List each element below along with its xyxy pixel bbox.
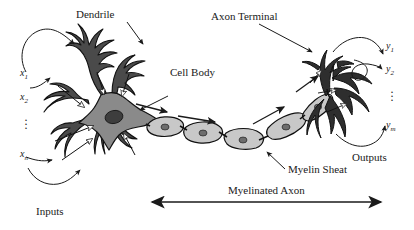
label-inputs: Inputs — [36, 206, 64, 217]
input-xn-sub: n — [24, 154, 28, 162]
cell-body-soma — [79, 93, 158, 150]
neuron-illustration — [0, 0, 414, 230]
label-dendrite: Dendrile — [76, 9, 114, 20]
input-label-x2: x2 — [20, 92, 28, 105]
input-label-x1: x1 — [20, 68, 28, 81]
label-axon-terminal: Axon Terminal — [211, 11, 278, 22]
neuron-diagram: Dendrile Cell Body Axon Terminal Myelin … — [0, 0, 414, 230]
output-label-ym: ym — [386, 120, 396, 133]
leader-myelin-sheath — [267, 152, 285, 169]
leader-axon-terminal — [259, 24, 312, 52]
input-arrows — [22, 29, 80, 184]
output-ellipsis-icon: ··· — [388, 90, 396, 102]
output-y1-sub: 1 — [390, 46, 394, 54]
axon-terminal-tree — [302, 50, 372, 138]
output-y2-sub: 2 — [390, 69, 394, 77]
leader-dendrite — [127, 22, 143, 44]
output-ym-sub: m — [390, 125, 395, 133]
output-label-y1: y1 — [386, 41, 394, 54]
dendrite-tree — [44, 24, 145, 157]
label-myelin-sheath: Myelin Sheat — [288, 164, 347, 175]
input-label-xn: xn — [20, 149, 28, 162]
input-x1-sub: 1 — [24, 73, 28, 81]
callout-leaders — [127, 22, 312, 169]
input-x2-sub: 2 — [24, 97, 28, 105]
myelin-sheath-segments — [147, 94, 333, 149]
label-cell-body: Cell Body — [170, 67, 215, 78]
label-myelinated-axon: Myelinated Axon — [228, 185, 305, 196]
output-label-y2: y2 — [386, 64, 394, 77]
label-outputs: Outputs — [352, 152, 387, 163]
leader-cell-body — [140, 96, 168, 110]
input-ellipsis-icon: ··· — [22, 118, 30, 130]
